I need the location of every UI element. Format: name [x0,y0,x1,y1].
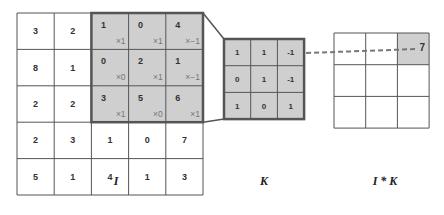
input-cell-value: 3 [70,135,75,145]
connector-line-bottom [203,119,224,122]
kernel-cell-value: 1 [289,102,294,111]
input-cell-value: 1 [70,172,75,182]
input-cell-value: 5 [138,93,143,103]
connector-line-top [203,13,224,39]
input-matrix-label: I [96,174,136,189]
output-cell-value: 7 [420,42,426,53]
kernel-cell-value: -1 [287,75,295,84]
input-cell-value: 0 [138,20,143,30]
input-cell-value: 7 [182,135,187,145]
output-matrix-label: I * K [350,174,420,189]
input-cell-value: 1 [70,63,75,73]
kernel-cell-value: -1 [287,48,295,57]
input-cell-value: 0 [101,56,106,66]
input-cell-value: 4 [175,20,180,30]
multiplier-label: ×−1 [185,72,200,82]
input-cell-value: 0 [145,135,150,145]
input-cell-value: 2 [70,99,75,109]
multiplier-label: ×1 [116,109,126,119]
input-cell-value: 6 [175,93,180,103]
kernel-cell-value: 1 [235,48,240,57]
input-cell-value: 1 [107,135,112,145]
input-cell-value: 2 [138,56,143,66]
input-cell-value: 2 [33,99,38,109]
kernel-label: K [244,174,284,189]
multiplier-label: ×−1 [185,36,200,46]
input-cell-value: 1 [145,172,150,182]
multiplier-label: ×1 [116,36,126,46]
kernel-cell-value: 0 [262,102,267,111]
kernel-cell-value: 1 [262,75,267,84]
input-cell-value: 3 [33,26,38,36]
kernel-cell-value: 1 [262,48,267,57]
multiplier-label: ×1 [153,72,163,82]
input-cell-value: 2 [70,26,75,36]
input-cell-value: 3 [182,172,187,182]
kernel-cell-value: 1 [235,102,240,111]
kernel-cell-value: 0 [235,75,240,84]
input-cell-value: 2 [33,135,38,145]
multiplier-label: ×1 [153,36,163,46]
input-cell-value: 8 [33,63,38,73]
multiplier-label: ×0 [116,72,126,82]
input-cell-value: 1 [101,20,106,30]
input-cell-value: 3 [101,93,106,103]
multiplier-label: ×1 [190,109,200,119]
input-cell-value: 1 [175,56,180,66]
multiplier-label: ×0 [153,109,163,119]
input-highlight-region [91,13,203,122]
input-cell-value: 5 [33,172,38,182]
